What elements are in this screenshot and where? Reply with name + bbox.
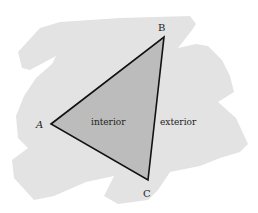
vertex-label-a: A	[35, 119, 43, 130]
vertex-label-b: B	[158, 22, 165, 33]
vertex-label-c: C	[143, 188, 151, 199]
triangle-diagram: A B C interior exterior	[0, 0, 258, 213]
interior-label: interior	[91, 117, 126, 127]
exterior-label: exterior	[160, 117, 197, 127]
